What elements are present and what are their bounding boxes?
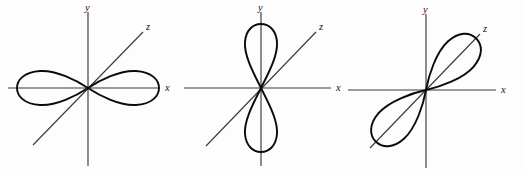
z-axis-label: z bbox=[482, 23, 487, 34]
z-axis-label: z bbox=[318, 21, 323, 32]
p-y-orbital-panel: x y z bbox=[174, 0, 348, 175]
y-axis-label: y bbox=[422, 4, 428, 15]
y-axis-label: y bbox=[84, 2, 90, 13]
p-z-orbital-panel: x y z bbox=[348, 0, 522, 175]
y-axis-label: y bbox=[257, 2, 263, 13]
p-orbital-figure: x y z x y z x y z bbox=[0, 0, 522, 175]
z-axis-label: z bbox=[145, 21, 150, 32]
x-axis-label: x bbox=[335, 82, 341, 93]
x-axis-label: x bbox=[164, 82, 170, 93]
p-x-orbital-panel: x y z bbox=[0, 0, 174, 175]
x-axis-label: x bbox=[500, 84, 506, 95]
